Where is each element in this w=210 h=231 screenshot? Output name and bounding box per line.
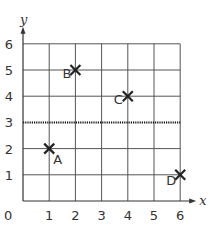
- x-tick-1: 1: [45, 208, 53, 223]
- point-A: A: [44, 144, 62, 167]
- y-tick-6: 6: [5, 37, 13, 52]
- point-label-C: C: [114, 92, 123, 107]
- x-tick-6: 6: [176, 208, 184, 223]
- grid-lines: [23, 44, 180, 201]
- x-tick-0: 0: [4, 208, 12, 223]
- y-tick-2: 2: [5, 142, 13, 157]
- y-axis-label: y: [19, 12, 28, 27]
- x-tick-3: 3: [97, 208, 105, 223]
- point-label-D: D: [166, 173, 176, 188]
- y-tick-3: 3: [5, 115, 13, 130]
- x-tick-4: 4: [124, 208, 132, 223]
- point-label-B: B: [62, 66, 71, 81]
- y-tick-5: 5: [5, 63, 13, 78]
- y-tick-1: 1: [5, 168, 13, 183]
- point-label-A: A: [53, 152, 62, 167]
- point-D: D: [166, 170, 185, 188]
- y-axis-arrow-icon: [21, 27, 26, 34]
- x-axis-label: x: [199, 193, 207, 208]
- point-B: B: [62, 65, 80, 81]
- y-tick-4: 4: [5, 89, 13, 104]
- x-tick-2: 2: [71, 208, 79, 223]
- x-tick-5: 5: [150, 208, 158, 223]
- x-axis-arrow-icon: [189, 199, 196, 204]
- point-C: C: [114, 91, 133, 107]
- coordinate-grid-chart: xy0123456123456ABCD: [0, 0, 210, 231]
